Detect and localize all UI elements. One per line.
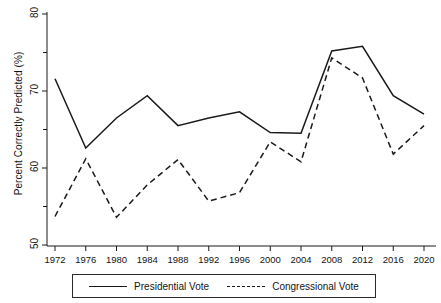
legend-entry: Presidential Vote <box>80 281 218 292</box>
chart-figure: Percent Correctly Predicted (%) 50607080… <box>0 0 441 303</box>
axes <box>42 12 436 251</box>
plot-area <box>0 0 441 303</box>
legend-swatch-dashed <box>227 286 265 287</box>
legend-label: Presidential Vote <box>134 281 209 292</box>
legend-entry: Congressional Vote <box>218 281 368 292</box>
data-series <box>55 46 424 217</box>
legend-swatch-solid <box>89 286 127 287</box>
legend-label: Congressional Vote <box>272 281 359 292</box>
series-line-presidential-vote <box>55 46 424 148</box>
series-line-congressional-vote <box>55 58 424 217</box>
chart-legend: Presidential VoteCongressional Vote <box>72 274 376 298</box>
